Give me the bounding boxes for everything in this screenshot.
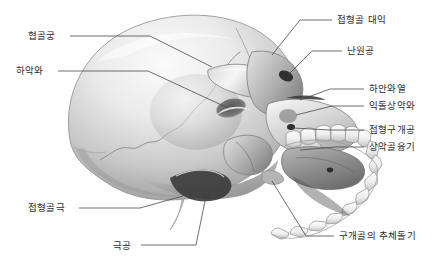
anatomy-figure: 협골궁하악와접형골극극공접형골 대익난원공하안와열익돌상악와접형구개공상악골융기… [0,0,443,274]
label-zygomatic-arch: 협골궁 [28,31,56,41]
label-layer: 협골궁하악와접형골극극공접형골 대익난원공하안와열익돌상악와접형구개공상악골융기… [0,0,443,274]
label-inferior-orbital-fissure: 하안와열 [369,84,406,94]
label-foramen-ovale: 난원공 [347,46,375,56]
label-sphenopalatine-foramen: 접형구개공 [369,125,415,135]
label-sphenoid-spine: 접형골극 [28,203,65,213]
label-sphenoid-greater-wing: 접형골 대익 [337,15,386,25]
label-pterygomaxillary-fossa: 익돌상악와 [369,101,415,111]
label-maxillary-tuberosity: 상악골융기 [369,142,415,152]
label-mandibular-fossa: 하악와 [16,66,44,76]
label-palatine-pyramidal-process: 구개골의 추체돌기 [339,231,416,241]
label-foramen-spinosum: 극공 [113,241,131,251]
